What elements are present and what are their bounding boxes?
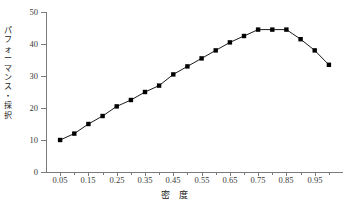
data-point-marker <box>214 48 218 52</box>
data-point-marker <box>313 48 317 52</box>
data-point-marker <box>72 131 76 135</box>
data-point-marker <box>270 27 274 31</box>
data-point-marker <box>228 40 232 44</box>
data-point-marker <box>185 64 189 68</box>
data-point-marker <box>86 122 90 126</box>
data-point-marker <box>143 90 147 94</box>
data-point-marker <box>256 27 260 31</box>
data-point-marker <box>199 56 203 60</box>
plot-area <box>0 0 349 210</box>
x-axis-title: 密 度 <box>0 190 349 200</box>
data-point-markers <box>58 27 331 142</box>
data-point-marker <box>284 27 288 31</box>
data-series-line <box>60 30 329 140</box>
data-point-marker <box>115 104 119 108</box>
data-point-marker <box>298 37 302 41</box>
data-point-marker <box>242 34 246 38</box>
data-point-marker <box>171 72 175 76</box>
data-point-marker <box>58 138 62 142</box>
data-point-marker <box>129 98 133 102</box>
data-point-marker <box>157 83 161 87</box>
chart-figure: パフォーマンス・採択 01020304050 0.050.150.250.350… <box>0 0 349 210</box>
data-point-marker <box>100 114 104 118</box>
data-point-marker <box>327 63 331 67</box>
